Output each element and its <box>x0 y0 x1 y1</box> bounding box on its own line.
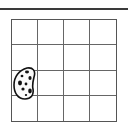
board-cell-r2-c3[interactable] <box>90 71 116 96</box>
spotted-bean-piece-icon[interactable] <box>13 67 37 100</box>
board-cell-r2-c1[interactable] <box>38 71 64 96</box>
board-cell-r2-c2[interactable] <box>64 71 90 96</box>
board-cell-r0-c1[interactable] <box>38 20 64 45</box>
board-cell-r0-c2[interactable] <box>64 20 90 45</box>
board-cell-r0-c3[interactable] <box>90 20 116 45</box>
board-cell-r3-c1[interactable] <box>38 96 64 121</box>
board-cell-r1-c2[interactable] <box>64 45 90 70</box>
board-cell-r1-c1[interactable] <box>38 45 64 70</box>
board-cell-r1-c3[interactable] <box>90 45 116 70</box>
top-divider <box>0 8 128 10</box>
board-cell-r0-c0[interactable] <box>12 20 38 45</box>
board-cell-r3-c2[interactable] <box>64 96 90 121</box>
board-cell-r3-c3[interactable] <box>90 96 116 121</box>
